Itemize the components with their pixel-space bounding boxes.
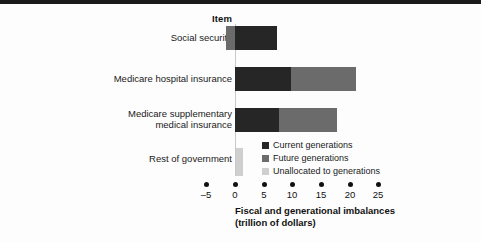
x-axis-title: Fiscal and generational imbalances (tril… — [235, 205, 395, 229]
bar-segment-future-generations — [226, 26, 235, 50]
legend-swatch-icon — [262, 168, 269, 175]
category-label-line: Medicare hospital insurance — [0, 73, 232, 84]
bar-segment-current-generations — [235, 26, 277, 50]
bar-rest-of-government[interactable] — [236, 148, 244, 176]
bar-medicare-hospital-insurance[interactable] — [235, 67, 357, 91]
bar-segment-future-generations — [291, 67, 356, 91]
legend-item-unallocated-to-generations[interactable]: Unallocated to generations — [262, 165, 380, 177]
category-label-line: medical insurance — [0, 119, 232, 130]
x-tick-dot — [290, 182, 295, 187]
x-axis-title-line2: (trillion of dollars) — [235, 217, 395, 229]
x-tick-dot — [376, 182, 381, 187]
legend-item-future-generations[interactable]: Future generations — [262, 152, 380, 164]
category-label-rest-of-government: Rest of government — [0, 153, 232, 164]
legend-swatch-icon — [262, 142, 269, 149]
x-tick-label: 10 — [277, 189, 307, 200]
x-tick-label: 0 — [220, 189, 250, 200]
category-label-medicare-hospital-insurance: Medicare hospital insurance — [0, 73, 232, 84]
legend-label: Future generations — [273, 153, 349, 163]
bar-segment-current-generations — [235, 108, 279, 132]
x-tick-dot — [233, 182, 238, 187]
chart-legend: Current generations Future generations U… — [262, 139, 380, 178]
x-tick-label: 25 — [363, 189, 393, 200]
x-axis-title-line1: Fiscal and generational imbalances — [235, 205, 395, 217]
x-tick-dot — [319, 182, 324, 187]
chart-figure: Item Social security Medicare hospital i… — [0, 0, 481, 242]
category-label-social-security: Social security — [0, 32, 232, 43]
category-label-medicare-supplementary-medical-insurance: Medicare supplementary medical insurance — [0, 108, 232, 130]
legend-label: Current generations — [273, 140, 353, 150]
category-label-line: Social security — [0, 32, 232, 43]
bar-segment-future-generations — [279, 108, 337, 132]
legend-swatch-icon — [262, 155, 269, 162]
plot-area: Item Social security Medicare hospital i… — [0, 0, 481, 242]
category-label-line: Medicare supplementary — [0, 108, 232, 119]
x-tick-dot — [348, 182, 353, 187]
x-tick-label: 20 — [335, 189, 365, 200]
x-tick-label: –5 — [191, 189, 221, 200]
bar-social-security[interactable] — [226, 26, 296, 50]
x-tick-label: 15 — [306, 189, 336, 200]
category-label-line: Rest of government — [0, 153, 232, 164]
legend-item-current-generations[interactable]: Current generations — [262, 139, 380, 151]
item-column-header: Item — [0, 13, 232, 24]
x-tick-label: 5 — [249, 189, 279, 200]
x-tick-dot — [204, 182, 209, 187]
bar-segment-unallocated-to-generations — [236, 148, 243, 176]
bar-medicare-supplementary-medical-insurance[interactable] — [235, 108, 338, 132]
x-tick-dot — [262, 182, 267, 187]
legend-label: Unallocated to generations — [273, 166, 380, 176]
bar-segment-current-generations — [235, 67, 291, 91]
